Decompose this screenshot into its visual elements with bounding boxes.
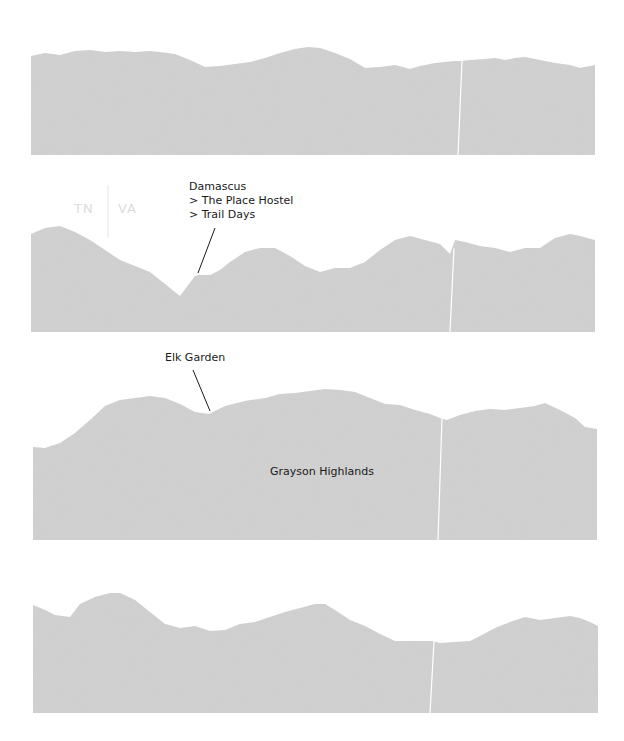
annotation-label: Elk Garden bbox=[165, 351, 225, 364]
elevation-profile-chart: TNVADamascus> The Place Hostel> Trail Da… bbox=[0, 0, 624, 741]
annotation-label: Grayson Highlands bbox=[270, 465, 374, 478]
leader-line bbox=[193, 370, 210, 411]
elevation-panel bbox=[33, 593, 598, 713]
elevation-panel: Elk GardenGrayson Highlands bbox=[33, 351, 597, 540]
elevation-panel: TNVADamascus> The Place Hostel> Trail Da… bbox=[31, 180, 595, 332]
annotation-label: Damascus> The Place Hostel> Trail Days bbox=[189, 180, 293, 221]
elevation-area bbox=[33, 593, 598, 713]
elevation-panel bbox=[31, 47, 595, 155]
state-label: TN bbox=[73, 201, 94, 216]
leader-line bbox=[198, 228, 215, 273]
state-label: VA bbox=[118, 201, 137, 216]
elevation-area bbox=[31, 226, 595, 332]
elevation-area bbox=[31, 47, 595, 155]
